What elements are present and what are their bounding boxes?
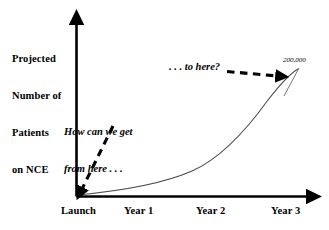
annotation-from-here: How can we get from here . . .	[64, 101, 133, 200]
to-here-arrow	[227, 72, 277, 77]
annotation-from-here-line-1: How can we get	[64, 126, 133, 138]
y-axis-title-line-1: Projected	[12, 53, 61, 65]
x-axis-tick-year-2: Year 2	[196, 205, 225, 217]
x-axis-tick-year-3: Year 3	[271, 205, 300, 217]
y-axis-title: Projected Number of Patients on NCE	[12, 28, 61, 201]
chart-figure: Projected Number of Patients on NCE How …	[0, 0, 329, 230]
annotation-to-here: . . . to here?	[169, 61, 220, 73]
y-axis-title-line-4: on NCE	[12, 164, 61, 176]
y-axis-title-line-2: Number of	[12, 90, 61, 102]
x-axis-tick-launch: Launch	[61, 205, 96, 217]
y-axis-title-line-3: Patients	[12, 127, 61, 139]
endpoint-leader-line	[284, 68, 299, 96]
annotation-from-here-line-2: from here . . .	[64, 163, 133, 175]
curve-endpoint-value-label: 200,000	[283, 56, 306, 64]
x-axis-tick-year-1: Year 1	[124, 205, 153, 217]
